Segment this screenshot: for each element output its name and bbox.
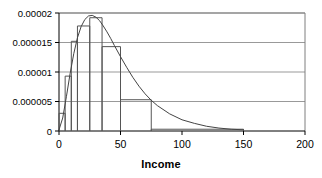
chart-canvas: 00.0000050.000010.0000150.00002 05010015… (0, 0, 322, 178)
x-axis-title: Income (0, 158, 322, 170)
y-tick-label: 0.000015 (12, 37, 52, 48)
histogram-chart: 00.0000050.000010.0000150.00002 05010015… (0, 0, 322, 178)
chart-background (0, 0, 322, 178)
x-tick-label: 100 (173, 138, 191, 150)
y-tick-label: 0.000005 (12, 96, 52, 107)
y-tick-label: 0.00001 (18, 67, 52, 78)
x-tick-label: 50 (115, 138, 127, 150)
x-tick-label: 200 (296, 138, 314, 150)
y-tick-label: 0 (47, 126, 52, 137)
y-tick-label: 0.00002 (18, 8, 52, 19)
x-tick-label: 0 (56, 138, 62, 150)
x-tick-label: 150 (235, 138, 253, 150)
